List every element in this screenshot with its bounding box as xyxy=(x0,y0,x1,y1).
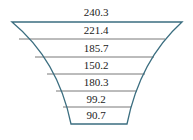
funnel-level-label: 185.7 xyxy=(84,42,109,54)
funnel-level-label: 90.7 xyxy=(86,109,106,121)
funnel-diagram: 240.3 221.4 185.7 150.2 180.3 99.2 90.7 xyxy=(0,0,193,140)
funnel-top-label: 240.3 xyxy=(84,6,109,18)
funnel-level-label: 180.3 xyxy=(84,76,109,88)
funnel-level-label: 221.4 xyxy=(84,24,109,36)
funnel-level-label: 99.2 xyxy=(86,93,105,105)
funnel-level-label: 150.2 xyxy=(84,59,109,71)
